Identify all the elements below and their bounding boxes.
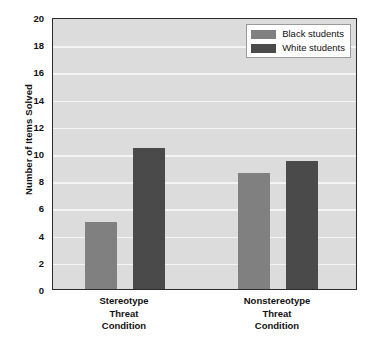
- y-tick-label: 0: [39, 285, 44, 296]
- legend-label-black-students: Black students: [282, 29, 344, 39]
- gridline: [53, 155, 356, 157]
- y-tick-label: 4: [39, 230, 44, 241]
- x-category-label-line: Threat: [244, 308, 311, 321]
- y-tick-label: 8: [39, 176, 44, 187]
- gridline: [53, 101, 356, 103]
- y-tick-label: 18: [33, 40, 44, 51]
- gridline: [53, 128, 356, 130]
- x-category-label-line: Stereotype: [99, 295, 148, 308]
- bar: [85, 222, 117, 289]
- y-tick-label: 14: [33, 94, 44, 105]
- y-tick-label: 10: [33, 149, 44, 160]
- legend-item: White students: [251, 42, 345, 54]
- x-category-label-line: Condition: [244, 320, 311, 333]
- legend-swatch-black-students: [251, 30, 276, 39]
- x-category-label: StereotypeThreatCondition: [99, 295, 148, 333]
- plot-area: Black students White students: [52, 18, 357, 290]
- x-category-label-line: Nonstereotype: [244, 295, 311, 308]
- y-axis-tick-labels: 02468101214161820: [22, 18, 48, 290]
- bar: [238, 173, 270, 289]
- x-axis-category-labels: StereotypeThreatConditionNonstereotypeTh…: [52, 295, 357, 345]
- y-tick-label: 2: [39, 257, 44, 268]
- x-category-label-line: Condition: [99, 320, 148, 333]
- x-category-label: NonstereotypeThreatCondition: [244, 295, 311, 333]
- bar-chart-figure: Number of Items Solved 02468101214161820…: [0, 0, 373, 352]
- x-category-label-line: Threat: [99, 308, 148, 321]
- bar: [133, 148, 165, 289]
- chart-legend: Black students White students: [246, 24, 351, 58]
- legend-item: Black students: [251, 28, 345, 40]
- y-tick-label: 6: [39, 203, 44, 214]
- y-tick-label: 12: [33, 121, 44, 132]
- y-tick-label: 16: [33, 67, 44, 78]
- legend-swatch-white-students: [251, 44, 276, 53]
- gridline: [53, 73, 356, 75]
- bar: [286, 161, 318, 289]
- legend-label-white-students: White students: [282, 43, 345, 53]
- y-tick-label: 20: [33, 13, 44, 24]
